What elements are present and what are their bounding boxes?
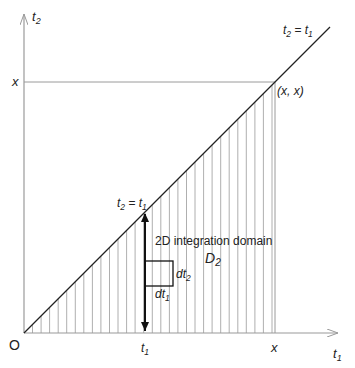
x-tick-x-label: x <box>270 340 278 355</box>
domain-caption: 2D integration domain <box>155 234 272 248</box>
dt2-label: dt2 <box>176 267 191 283</box>
y-tick-x-label: x <box>11 74 19 89</box>
origin-label: O <box>9 337 20 353</box>
corner-point-label: (x, x) <box>277 84 304 98</box>
integration-domain-diagram: t2 x t2 = t1 (x, x) t2 = t1 2D integrati… <box>0 0 355 368</box>
dt1-label: dt1 <box>155 287 170 303</box>
t2-axis-label: t2 <box>32 9 41 26</box>
diagonal-label-top: t2 = t1 <box>283 23 313 39</box>
differential-element <box>145 261 173 286</box>
t1-axis-label: t1 <box>333 346 342 363</box>
arrow-top-label: t2 = t1 <box>117 196 147 212</box>
diagonal-line <box>24 27 330 333</box>
domain-name: D2 <box>205 250 221 268</box>
domain-hatching <box>33 85 273 333</box>
x-tick-t1-label: t1 <box>141 341 149 357</box>
